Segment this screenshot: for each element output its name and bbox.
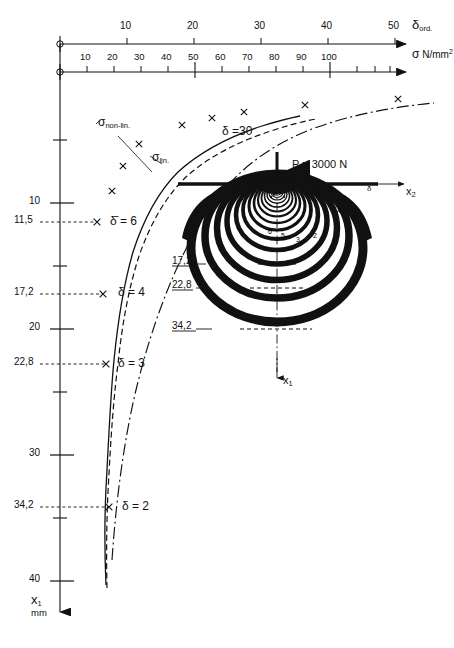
sigma-unit: N/mm — [422, 49, 449, 60]
depth-axis — [50, 44, 74, 612]
x1-unit-mm: mm — [31, 608, 47, 618]
inset-x2-axis-label: x2 — [406, 186, 416, 198]
sigma-axis-title: σ N/mm2 — [412, 48, 453, 60]
curve-label-delta-30: δ =30 — [222, 125, 252, 137]
inset-depth-22-8: 22,8 — [172, 280, 191, 290]
delta-tick-30: 30 — [254, 21, 265, 31]
sigma-axis — [57, 62, 406, 80]
inset-depth-34-2: 34,2 — [172, 321, 191, 331]
inset-surface-delta-label: δ — [367, 185, 371, 193]
curve-markers — [94, 96, 402, 511]
inset-contour-label-4: 4 — [337, 207, 341, 214]
depth-label-17-2: 17,2 — [14, 287, 33, 297]
sigma-tick-20: 20 — [107, 52, 118, 62]
depth-label-30: 30 — [29, 448, 40, 458]
x2-sub: 2 — [412, 190, 416, 199]
sigma-tick-40: 40 — [161, 52, 172, 62]
x1-axis-title: x1 — [31, 593, 42, 607]
inset-contour-label-2: 2 — [313, 232, 317, 239]
sigma-tick-100: 100 — [321, 52, 337, 62]
inset-x1-axis-label: x1 — [283, 375, 293, 387]
depth-label-22-8: 22,8 — [14, 357, 33, 367]
delta-ord-sub: ord. — [419, 24, 432, 33]
depth-callout-lines — [40, 222, 108, 507]
sigma-non-lin-sub: non-lin. — [105, 121, 130, 130]
sigma-tick-30: 30 — [134, 52, 145, 62]
figure-root: 10 20 30 40 50 δord. 10 20 30 40 50 60 7… — [0, 0, 454, 648]
sigma-lin-sub: lin. — [159, 156, 169, 165]
sigma-tick-10: 10 — [80, 52, 91, 62]
depth-label-40: 40 — [29, 574, 40, 584]
delta-tick-20: 20 — [187, 21, 198, 31]
curve-label-sigma-linear: σlin. — [152, 151, 169, 164]
depth-label-34-2: 34,2 — [14, 500, 33, 510]
inset-contour-label-3: 3 — [296, 236, 300, 243]
figure-canvas — [0, 0, 454, 648]
inset-x1-sub: 1 — [289, 379, 293, 388]
delta-axis — [57, 36, 406, 52]
depth-label-10: 10 — [29, 196, 40, 206]
delta-tick-10: 10 — [120, 21, 131, 31]
curve-label-sigma-non-linear: σnon-lin. — [98, 116, 130, 129]
sigma-tick-80: 80 — [269, 52, 280, 62]
sigma-unit-exponent: 2 — [449, 47, 453, 56]
annotation-delta-4: δ = 4 — [118, 286, 145, 298]
inset-depth-17-2: 17,2 — [172, 256, 191, 266]
delta-tick-40: 40 — [321, 21, 332, 31]
inset-contour-label-5: 5 — [281, 232, 285, 239]
annotation-delta-bar-6: δ̄ = 6 — [110, 215, 137, 227]
inset-contour-label-6: 6 — [268, 228, 272, 235]
sigma-tick-50: 50 — [188, 52, 199, 62]
delta-ord-axis-title: δord. — [412, 18, 432, 32]
sigma-tick-70: 70 — [242, 52, 253, 62]
inset-load-label: P = 3000 N — [292, 159, 347, 170]
sigma-tick-60: 60 — [215, 52, 226, 62]
delta-tick-50: 50 — [388, 21, 399, 31]
annotation-delta-2: δ = 2 — [122, 500, 149, 512]
depth-label-11-5: 11,5 — [14, 215, 33, 225]
annotation-delta-3: δ = 3 — [118, 357, 145, 369]
sigma-tick-90: 90 — [296, 52, 307, 62]
depth-label-20: 20 — [29, 322, 40, 332]
